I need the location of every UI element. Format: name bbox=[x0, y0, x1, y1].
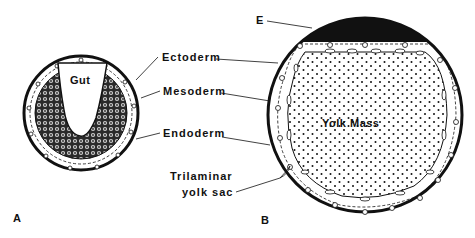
endoderm-label: Endoderm bbox=[163, 128, 225, 139]
yolk-sac-label: yolk sac bbox=[182, 187, 233, 198]
e-label: E bbox=[256, 15, 264, 26]
yolk-mass-label: Yolk Mass bbox=[322, 118, 380, 129]
mesoderm-label: Mesoderm bbox=[163, 86, 226, 97]
embryonic-cap bbox=[260, 10, 470, 42]
diagram-graphics bbox=[0, 0, 475, 238]
embryo-cross-section-figure: Gut Yolk Mass E Ectoderm Mesoderm Endode… bbox=[0, 0, 475, 238]
panel-a-label: A bbox=[13, 213, 21, 224]
panel-b-section bbox=[260, 10, 470, 215]
panel-b-label: B bbox=[261, 215, 269, 226]
gut-label: Gut bbox=[70, 75, 90, 86]
trilaminar-label: Trilaminar bbox=[170, 171, 233, 182]
ectoderm-label: Ectoderm bbox=[162, 52, 221, 63]
